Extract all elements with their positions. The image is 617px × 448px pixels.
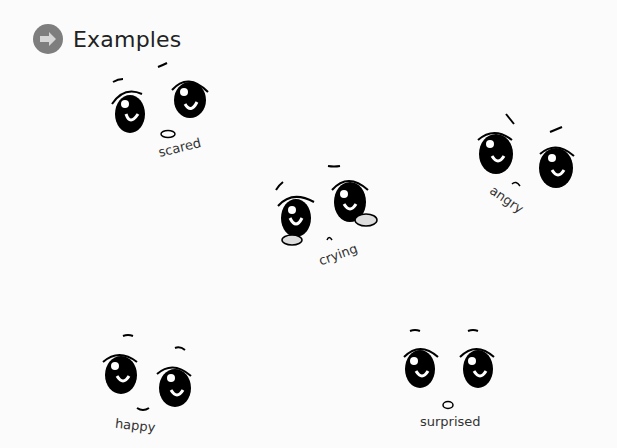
surprised-eyes-icon: [398, 325, 508, 415]
face-crying: [270, 160, 390, 254]
angry-eyes-icon: [470, 110, 590, 200]
face-label-surprised: surprised: [420, 414, 481, 429]
happy-eyes-icon: [95, 330, 205, 420]
face-angry: [470, 110, 590, 204]
section-header: Examples: [33, 24, 182, 54]
face-happy: [95, 330, 205, 424]
page-title: Examples: [73, 27, 182, 52]
scared-eyes-icon: [100, 62, 220, 142]
crying-eyes-icon: [270, 160, 390, 250]
face-surprised: [398, 325, 508, 419]
face-scared: [100, 62, 220, 146]
face-label-happy: happy: [114, 416, 156, 435]
arrow-right-circle-icon: [33, 24, 63, 54]
